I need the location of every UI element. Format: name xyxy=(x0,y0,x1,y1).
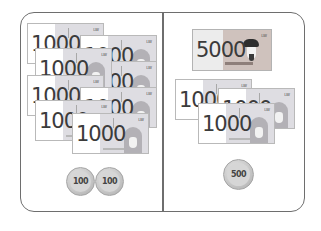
coin-100: 100 xyxy=(95,167,124,196)
note-mark: LW xyxy=(146,39,152,44)
banknote-5000: LW 5000 xyxy=(192,29,272,71)
note-mark: LW xyxy=(264,107,270,112)
note-mark: LW xyxy=(146,91,152,96)
coin-500: 500 xyxy=(223,159,254,190)
coin-value: 100 xyxy=(70,171,91,192)
banknote-1000: LW 1000 xyxy=(72,113,149,154)
note-mark: LW xyxy=(93,27,99,32)
panel-divider xyxy=(162,12,164,212)
note-value: 1000 xyxy=(202,112,251,136)
note-mark: LW xyxy=(101,52,107,57)
note-value: 1000 xyxy=(76,122,125,146)
coin-value: 500 xyxy=(227,163,250,186)
note-mark: LW xyxy=(284,92,290,97)
coin-value: 100 xyxy=(99,171,120,192)
coin-100: 100 xyxy=(66,167,95,196)
note-value: 5000 xyxy=(196,38,245,62)
note-mark: LW xyxy=(101,104,107,109)
banknote-1000: LW 1000 xyxy=(198,103,275,144)
note-mark: LW xyxy=(93,79,99,84)
note-mark: LW xyxy=(138,117,144,122)
note-mark: LW xyxy=(261,33,267,38)
note-mark: LW xyxy=(146,65,152,70)
